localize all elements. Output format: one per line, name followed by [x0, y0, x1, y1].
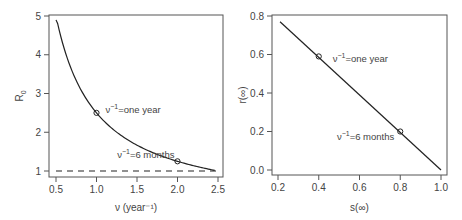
x-tick-label: 0.5 [49, 184, 63, 195]
y-tick-label: 3 [35, 88, 41, 99]
y-tick-label: 1 [35, 166, 41, 177]
x-tick-label: 1.5 [130, 184, 144, 195]
y-tick-label: 0.0 [250, 165, 264, 176]
y-axis-label: r(∞) [237, 86, 248, 103]
annotation-label: ν−1=6 months [117, 148, 175, 160]
annotation-label: ν−1=one year [333, 52, 388, 64]
annotation-label: ν−1=6 months [337, 130, 395, 142]
data-line [56, 20, 215, 170]
data-line [280, 22, 441, 170]
right-panel: 0.20.40.60.81.00.00.20.40.60.8s(∞)r(∞)ν−… [237, 11, 448, 214]
x-tick-label: 0.4 [312, 182, 326, 193]
x-tick-label: 0.2 [271, 182, 285, 193]
x-tick-label: 2.5 [211, 184, 225, 195]
figure: 0.51.01.52.02.512345ν (year⁻¹)R0ν−1=one … [0, 0, 462, 220]
y-tick-label: 5 [35, 11, 41, 22]
x-tick-label: 1.0 [90, 184, 104, 195]
y-tick-label: 0.8 [250, 11, 264, 22]
y-tick-label: 0.4 [250, 88, 264, 99]
y-tick-label: 2 [35, 127, 41, 138]
y-axis-label: R0 [14, 90, 27, 101]
y-tick-label: 4 [35, 49, 41, 60]
left-panel: 0.51.01.52.02.512345ν (year⁻¹)R0ν−1=one … [14, 11, 225, 214]
x-axis-label: s(∞) [350, 202, 369, 213]
x-tick-label: 1.0 [434, 182, 448, 193]
x-tick-label: 0.6 [353, 182, 367, 193]
x-tick-label: 0.8 [393, 182, 407, 193]
annotation-label: ν−1=one year [106, 103, 161, 115]
y-tick-label: 0.2 [250, 126, 264, 137]
x-tick-label: 2.0 [171, 184, 185, 195]
y-tick-label: 0.6 [250, 49, 264, 60]
x-axis-label: ν (year⁻¹) [115, 202, 157, 213]
